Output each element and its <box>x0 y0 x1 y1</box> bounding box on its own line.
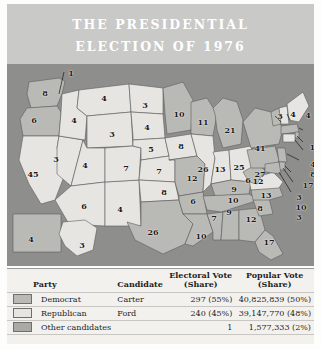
state-label-NV: 3 <box>53 154 59 164</box>
table-header-row: Party Candidate Electoral Vote (Share) P… <box>7 269 314 292</box>
state-label-MN: 10 <box>173 109 184 119</box>
cell-candidate: Carter <box>114 292 166 306</box>
state-label-MT: 4 <box>101 93 107 103</box>
title-line-2: ELECTION OF 1976 <box>7 39 314 54</box>
cell-party: Republican <box>38 306 114 320</box>
state-label-HI: 4 <box>28 234 34 244</box>
state-label-KY: 9 <box>231 184 237 194</box>
state-label-DE: 3 <box>296 192 302 202</box>
swatch-democrat <box>13 294 32 304</box>
party-color-swatch-cell <box>7 292 38 306</box>
state-label-MI: 21 <box>224 125 235 135</box>
state-label-VT: 3 <box>277 111 283 121</box>
state-label-IN: 13 <box>214 164 225 174</box>
header-popular-line2: (Share) <box>258 279 292 289</box>
state-label-WY: 3 <box>109 129 115 139</box>
results-legend: Party Candidate Electoral Vote (Share) P… <box>7 268 314 344</box>
state-label-IA: 8 <box>178 141 184 151</box>
header-party: Party <box>7 269 114 292</box>
state-MN <box>163 82 193 134</box>
state-label-NC: 13 <box>260 190 271 200</box>
state-label-UT: 4 <box>82 160 88 170</box>
state-label-DC: 3 <box>296 212 302 222</box>
state-label-IL: 26 <box>197 164 208 174</box>
state-label-AR: 6 <box>190 196 196 206</box>
map-panel: 8645344346473457826108126107911261321259… <box>7 64 314 266</box>
swatch-republican <box>13 308 32 318</box>
state-label-KS: 7 <box>156 166 162 176</box>
state-label-WV: 6 <box>245 175 251 185</box>
header-electoral-vote: Electoral Vote (Share) <box>166 269 235 292</box>
title-line-1: THE PRESIDENTIAL <box>7 17 314 32</box>
results-table: Party Candidate Electoral Vote (Share) P… <box>7 269 314 335</box>
cell-party: Other candidates <box>38 320 114 334</box>
state-NM <box>105 180 141 226</box>
state-label-OK: 8 <box>161 187 167 197</box>
state-label-GA: 12 <box>245 214 256 224</box>
cell-popular-vote: 40,825,839 (50%) <box>235 292 314 306</box>
state-label-ME: 4 <box>305 110 311 120</box>
state-label-MD: 10 <box>295 202 306 212</box>
state-label-SD: 4 <box>144 122 150 132</box>
state-CT <box>283 134 295 142</box>
state-label-SC: 8 <box>257 203 263 213</box>
state-AK <box>59 220 97 256</box>
table-row: Other candidates11,577,333 (2%) <box>7 320 314 334</box>
figure-title-band: THE PRESIDENTIAL ELECTION OF 1976 <box>7 4 314 64</box>
state-label-FL: 17 <box>263 237 274 247</box>
header-electoral-line2: (Share) <box>184 279 218 289</box>
header-popular-vote: Popular Vote (Share) <box>235 269 314 292</box>
table-body: DemocratCarter297 (55%)40,825,839 (50%)R… <box>7 292 314 334</box>
cell-party: Democrat <box>38 292 114 306</box>
cell-popular-vote: 1,577,333 (2%) <box>235 320 314 334</box>
state-AZ <box>55 182 105 226</box>
state-label-MS: 7 <box>211 213 217 223</box>
state-label-NM: 4 <box>117 204 123 214</box>
cell-candidate <box>114 320 166 334</box>
state-MD <box>265 162 281 174</box>
state-label-CA: 45 <box>27 169 38 179</box>
state-label-RI: 4 <box>310 159 314 169</box>
state-label-NH: 4 <box>290 109 296 119</box>
state-label-AZ: 6 <box>81 201 87 211</box>
state-MI <box>213 98 243 148</box>
state-OR <box>20 106 61 136</box>
state-label-ID: 4 <box>71 115 77 125</box>
state-label-MA: 14 <box>309 142 314 152</box>
party-color-swatch-cell <box>7 320 38 334</box>
us-map-svg <box>7 64 314 266</box>
state-OK <box>139 180 179 202</box>
state-label-AK: 3 <box>79 240 85 250</box>
state-label-CO: 7 <box>123 163 129 173</box>
table-row: DemocratCarter297 (55%)40,825,839 (50%) <box>7 292 314 306</box>
state-label-CT: 8 <box>310 169 314 179</box>
state-label-PA: 27 <box>254 169 265 179</box>
header-candidate: Candidate <box>114 269 166 292</box>
state-label-WA: 8 <box>42 88 48 98</box>
swatch-other-candidates <box>13 322 32 332</box>
hawaii-inset-box <box>13 214 61 252</box>
state-label-WA-split-elector: 1 <box>68 68 74 78</box>
state-label-NE: 5 <box>148 144 154 154</box>
state-label-NJ: 17 <box>302 180 313 190</box>
table-row: RepublicanFord240 (45%)39,147,770 (48%) <box>7 306 314 320</box>
cell-electoral-vote: 1 <box>166 320 235 334</box>
state-label-LA: 10 <box>195 231 206 241</box>
state-label-OR: 6 <box>31 115 37 125</box>
state-label-MO: 12 <box>186 173 197 183</box>
cell-candidate: Ford <box>114 306 166 320</box>
state-NJ <box>277 148 287 162</box>
state-label-ND: 3 <box>142 100 148 110</box>
state-label-WI: 11 <box>197 117 208 127</box>
state-label-AL: 9 <box>226 207 232 217</box>
cell-popular-vote: 39,147,770 (48%) <box>235 306 314 320</box>
state-label-TX: 26 <box>147 227 158 237</box>
state-label-OH: 25 <box>233 162 244 172</box>
party-color-swatch-cell <box>7 306 38 320</box>
cell-electoral-vote: 297 (55%) <box>166 292 235 306</box>
state-label-TN: 10 <box>227 195 238 205</box>
cell-electoral-vote: 240 (45%) <box>166 306 235 320</box>
state-label-NY: 41 <box>254 143 265 153</box>
election-map-figure: THE PRESIDENTIAL ELECTION OF 1976 <box>0 0 321 349</box>
